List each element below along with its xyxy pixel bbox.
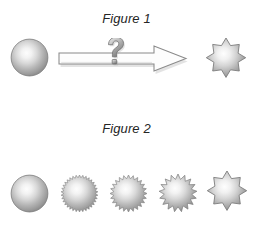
- figure-2-morph-step-5: [204, 170, 250, 216]
- diagram-canvas: Figure 1: [0, 0, 253, 228]
- figure-1-sphere: [9, 37, 50, 78]
- figure-2-morph-step-4: [157, 172, 199, 214]
- figure-1-caption: Figure 1: [0, 11, 253, 26]
- figure-2-morph-step-3: [108, 173, 149, 214]
- figure-1-star-burst: [203, 37, 249, 83]
- figure-2-caption: Figure 2: [0, 121, 253, 136]
- figure-2-morph-step-2: [59, 173, 100, 214]
- figure-2-morph-step-1: [9, 173, 50, 214]
- transformation-arrow: [58, 38, 194, 78]
